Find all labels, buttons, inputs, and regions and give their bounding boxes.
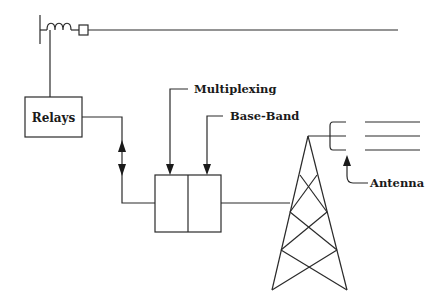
- square-element-icon: [79, 25, 88, 35]
- transmission-line-group: [40, 15, 398, 44]
- relays-box: Relays: [25, 97, 82, 137]
- multiplexing-baseband-unit: [155, 175, 221, 232]
- antenna-callout: Antenna: [343, 155, 425, 190]
- arrow-down-icon: [166, 164, 174, 175]
- relays-to-unit-line: [82, 117, 155, 203]
- coil-icon: [47, 23, 71, 30]
- antenna-label: Antenna: [369, 176, 425, 190]
- diagram-canvas: Relays Multiplexing Base-Band: [0, 0, 441, 307]
- arrow-down-icon: [203, 164, 211, 175]
- antenna-icon: [308, 122, 420, 150]
- relays-label: Relays: [32, 111, 76, 125]
- multiplexing-label: Multiplexing: [194, 82, 277, 96]
- baseband-callout: Base-Band: [203, 109, 299, 175]
- baseband-label: Base-Band: [230, 109, 299, 123]
- multiplexing-callout: Multiplexing: [166, 82, 277, 175]
- arrow-up-icon: [343, 155, 351, 166]
- tower-icon: [272, 136, 347, 290]
